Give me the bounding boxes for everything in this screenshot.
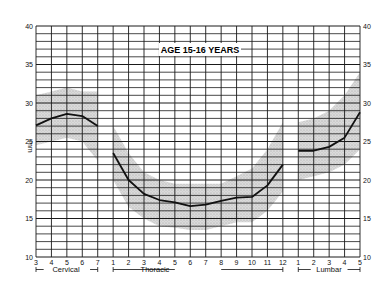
region-label-lumbar: Lumbar [316,265,342,274]
x-tick-label: 1 [111,259,115,266]
y-axis-unit-label: mm [27,141,34,153]
x-tick-label: 10 [248,259,256,266]
x-tick-label: 5 [358,259,362,266]
y-tick-label-left: 20 [25,177,33,184]
y-tick-label-left: 15 [25,215,33,222]
y-tick-label-left: 30 [25,100,33,107]
x-tick-label: 2 [312,259,316,266]
x-tick-label: 4 [343,259,347,266]
y-tick-label-right: 20 [363,177,371,184]
y-tick-label-right: 15 [363,215,371,222]
chart-title: AGE 15-16 YEARS [159,43,241,56]
y-tick-label-left: 10 [25,254,33,261]
x-tick-label: 1 [296,259,300,266]
x-tick-label: 9 [235,259,239,266]
y-axis-right: 10152025303540 [363,23,371,261]
band-thoracic [113,122,283,230]
y-tick-label-right: 25 [363,138,371,145]
y-tick-label-left: 40 [25,23,33,30]
x-tick-label: 8 [219,259,223,266]
x-tick-label: 7 [204,259,208,266]
x-tick-label: 6 [188,259,192,266]
spinal-canal-chart: 10152025303540 10152025303540 3456712345… [0,0,390,291]
y-tick-label-right: 10 [363,254,371,261]
x-tick-label: 5 [173,259,177,266]
y-tick-label-right: 30 [363,100,371,107]
x-axis: 3456712345678910111212345 [34,259,362,272]
x-tick-label: 2 [127,259,131,266]
x-tick-label: 11 [264,259,271,266]
region-label-cervical: Cervical [52,265,79,274]
x-tick-label: 6 [80,259,84,266]
region-label-thoracic: Thoracic [141,265,170,274]
chart-title-text: AGE 15-16 YEARS [161,45,239,55]
y-tick-label-left: 35 [25,61,33,68]
x-tick-label: 12 [279,259,287,266]
y-tick-label-right: 35 [363,61,371,68]
y-tick-label-right: 40 [363,23,371,30]
x-tick-label: 3 [34,259,38,266]
x-tick-label: 7 [96,259,100,266]
